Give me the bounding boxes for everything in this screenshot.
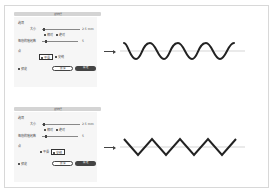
- corner-label: 尖锐: [56, 151, 62, 155]
- size-slider-knob[interactable]: [43, 123, 45, 126]
- smooth-wave-result: [120, 38, 248, 64]
- ridges-value[interactable]: 5: [82, 39, 84, 43]
- cancel-button[interactable]: 取消: [52, 161, 73, 166]
- smooth-radio[interactable]: [41, 57, 43, 59]
- relative-label: 相对: [47, 128, 53, 132]
- corner-option-box[interactable]: 尖锐: [51, 149, 65, 155]
- absolute-label: 绝对: [59, 128, 65, 132]
- size-slider[interactable]: [42, 29, 80, 30]
- corner-radio[interactable]: [53, 152, 55, 154]
- ridges-slider[interactable]: [42, 136, 78, 137]
- dialog-body: 选项 大小 2.5 mm 相对 绝对 每段的隆起数 5 点 平滑 尖锐 预览 取…: [14, 112, 97, 182]
- options-label: 选项: [18, 116, 24, 120]
- smooth-label: 平滑: [44, 56, 50, 60]
- relative-label: 相对: [47, 33, 53, 37]
- points-label: 点: [18, 49, 21, 53]
- ridges-slider-knob[interactable]: [45, 135, 47, 138]
- ridges-slider-knob[interactable]: [45, 40, 47, 43]
- dialog-title: 波纹效果: [14, 12, 101, 16]
- ok-button[interactable]: 确定: [75, 161, 96, 166]
- relative-radio[interactable]: [44, 129, 46, 131]
- arrow-right-icon: [104, 51, 115, 52]
- dialog-body: 选项 大小 2.5 mm 相对 绝对 每段的隆起数 5 点 平滑 尖锐 预览 取…: [14, 17, 97, 87]
- zigzag-dialog-corner: 波纹效果 选项 大小 2.5 mm 相对 绝对 每段的隆起数 5 点 平滑 尖锐…: [10, 107, 101, 183]
- ridges-slider[interactable]: [42, 41, 78, 42]
- smooth-label: 平滑: [43, 150, 49, 154]
- ridges-label: 每段的隆起数: [18, 39, 36, 43]
- options-label: 选项: [18, 21, 24, 25]
- relative-radio[interactable]: [44, 34, 46, 36]
- preview-checkbox[interactable]: [18, 163, 20, 165]
- cancel-button[interactable]: 取消: [52, 66, 73, 71]
- absolute-radio[interactable]: [56, 129, 58, 131]
- ok-button[interactable]: 确定: [75, 66, 96, 71]
- size-value[interactable]: 2.5 mm: [82, 27, 94, 31]
- zigzag-dialog-smooth: 波纹效果 选项 大小 2.5 mm 相对 绝对 每段的隆起数 5 点 平滑 尖锐…: [10, 12, 101, 88]
- ridges-value[interactable]: 5: [82, 134, 84, 138]
- dialog-title: 波纹效果: [14, 107, 101, 111]
- arrow-right-icon: [104, 147, 115, 148]
- zigzag-wave-result: [120, 134, 248, 160]
- size-label: 大小: [30, 122, 36, 126]
- preview-checkbox[interactable]: [18, 68, 20, 70]
- corner-radio[interactable]: [55, 56, 57, 58]
- size-value[interactable]: 2.5 mm: [82, 122, 94, 126]
- smooth-radio[interactable]: [40, 151, 42, 153]
- corner-label: 尖锐: [58, 55, 64, 59]
- smooth-option-box[interactable]: 平滑: [39, 54, 53, 60]
- preview-label: 预览: [21, 67, 27, 71]
- size-label: 大小: [30, 27, 36, 31]
- ridges-label: 每段的隆起数: [18, 134, 36, 138]
- absolute-radio[interactable]: [56, 34, 58, 36]
- size-slider[interactable]: [42, 124, 80, 125]
- points-label: 点: [18, 144, 21, 148]
- size-slider-knob[interactable]: [43, 28, 45, 31]
- absolute-label: 绝对: [59, 33, 65, 37]
- preview-label: 预览: [21, 162, 27, 166]
